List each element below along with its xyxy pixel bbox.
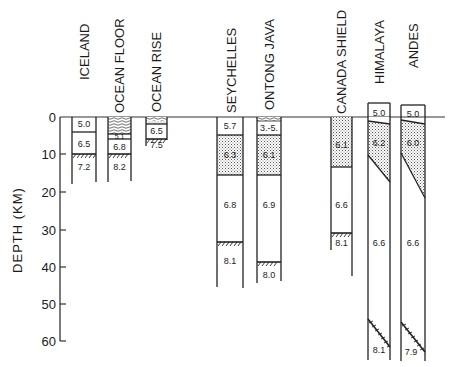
y-tick-40: 40 [42, 260, 56, 275]
column-titles: ICELAND OCEAN FLOOR OCEAN RISE SEYCHELLE… [77, 10, 421, 114]
layer-value: 5.0 [78, 119, 91, 129]
layer-value: 6.6 [407, 238, 420, 248]
layer-value: 8.2 [113, 162, 126, 172]
y-tick-50: 50 [42, 297, 56, 312]
column-title-iceland: ICELAND [77, 24, 92, 80]
layer-value: 8.0 [263, 270, 276, 280]
layer-value: 7.5 [150, 140, 163, 150]
layer-value: 6.5 [150, 126, 163, 136]
layer-value: 6.9 [263, 200, 276, 210]
column-title-himalaya: HIMALAYA [372, 20, 387, 84]
layer-value: 7.9 [405, 347, 418, 357]
layer-value: 6.8 [113, 142, 126, 152]
y-tick-10: 10 [42, 147, 56, 162]
column-title-andes: ANDES [406, 23, 421, 68]
crustal-section-diagram: 0 10 20 30 40 50 60 DEPTH (KM) ICELAND O… [0, 0, 459, 367]
layer-value: 6.6 [373, 238, 386, 248]
y-tick-0: 0 [49, 110, 56, 125]
y-tick-20: 20 [42, 185, 56, 200]
layer-value: 5.0 [373, 108, 386, 118]
column-title-ocean-rise: OCEAN RISE [149, 31, 164, 112]
layer-value: 8.1 [373, 345, 386, 355]
layer-value: 5.1 [115, 133, 125, 140]
y-tick-30: 30 [42, 223, 56, 238]
layer-value: 6.1 [335, 140, 348, 150]
layer-value: 6.0 [407, 138, 420, 148]
layer-value: 6.2 [373, 138, 386, 148]
layer-value: 6.3 [224, 150, 237, 160]
layer-value: 8.1 [224, 256, 237, 266]
layer-value: 6.1 [263, 150, 276, 160]
layer-value: 6.6 [335, 200, 348, 210]
column-title-canada-shield: CANADA SHIELD [334, 10, 349, 114]
layer-value: 7.2 [78, 162, 91, 172]
y-axis-label: DEPTH (KM) [10, 187, 25, 273]
layer-value: 6.5 [78, 139, 91, 149]
layer-value: 5.0 [407, 109, 420, 119]
column-title-ontong-java: ONTONG JAVA [262, 19, 277, 110]
layer-value: 6.8 [224, 200, 237, 210]
layer-value: 8.1 [335, 238, 348, 248]
layer-value: 3.-5. [260, 123, 278, 133]
layer-value: 5.7 [224, 121, 237, 131]
y-tick-60: 60 [42, 334, 56, 349]
column-title-ocean-floor: OCEAN FLOOR [112, 18, 127, 113]
column-title-seychelles: SEYCHELLES [224, 27, 239, 113]
